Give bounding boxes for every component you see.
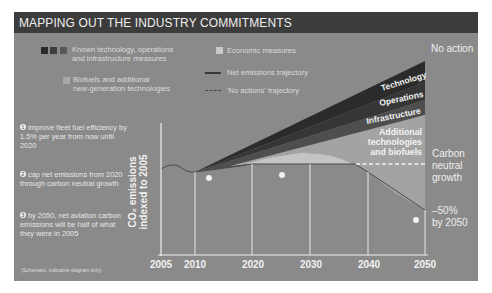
label-minus-50-1: –50% <box>432 205 458 217</box>
x-tick-2020: 2020 <box>242 259 264 270</box>
x-tick-2030: 2030 <box>300 259 322 270</box>
marker-1-icon <box>206 175 212 181</box>
label-minus-50-2: by 2050 <box>432 217 468 229</box>
label-additional-1: Additional <box>379 127 422 137</box>
marker-2-icon <box>279 172 285 178</box>
label-no-action: No action <box>431 43 473 55</box>
x-tick-2010: 2010 <box>184 259 206 270</box>
label-additional-3: and biofuels <box>370 147 422 157</box>
emissions-chart: Technology Operations Infrastructure Add… <box>0 0 492 293</box>
x-tick-2005: 2005 <box>150 259 172 270</box>
label-carbon-neutral-1: Carbon <box>432 148 465 160</box>
marker-3-icon <box>413 217 419 223</box>
label-carbon-neutral-2: neutral <box>432 160 463 172</box>
label-additional-2: technologies <box>368 137 422 147</box>
x-tick-2040: 2040 <box>358 259 380 270</box>
x-tick-2050: 2050 <box>414 259 436 270</box>
label-carbon-neutral-3: growth <box>432 172 462 184</box>
